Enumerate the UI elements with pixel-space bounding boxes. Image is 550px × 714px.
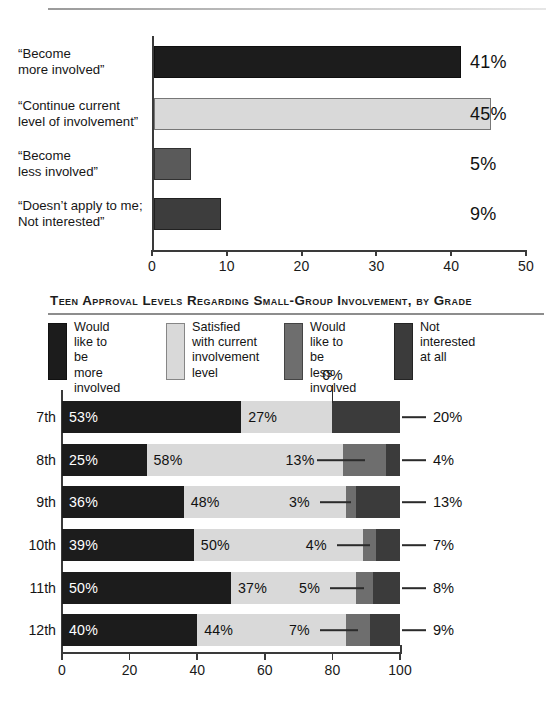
chart2-legend-swatch (284, 323, 303, 380)
chart2-legend-label-line: with current (192, 335, 259, 350)
chart2-leader-line-less (332, 385, 334, 403)
chart1-category-label: “Becomeless involved” (18, 148, 146, 180)
chart2-tick-label: 20 (122, 662, 138, 678)
chart2-leader-line-not (402, 459, 426, 461)
chart2-legend-label-line: involvement (192, 350, 259, 365)
chart1-category-line: less involved” (18, 164, 146, 180)
chart2-grade-label: 11th (8, 580, 56, 596)
chart2-legend-label-line: interested (420, 335, 475, 350)
chart2-leader-line-not (402, 629, 426, 631)
chart1-category-label: “Becomemore involved” (18, 46, 146, 78)
chart2-plot-area: 020406080100 7th53%27%0%20%8th25%58%13%4… (0, 390, 550, 714)
chart2-tick (129, 654, 131, 660)
chart2-tick-label: 100 (388, 662, 411, 678)
chart2-grade-row: 8th25%58%13%4% (0, 439, 550, 481)
chart2-tick (196, 654, 198, 660)
chart-teen-approval-stacked: Teen Approval Levels Regarding Small-Gro… (0, 280, 550, 714)
chart2-grade-label: 7th (8, 409, 56, 425)
chart2-legend-label-line: at all (420, 350, 475, 365)
chart2-segment-label-more: 53% (69, 409, 98, 425)
chart2-grade-row: 9th36%48%3%13% (0, 481, 550, 523)
chart2-leader-line-not (402, 416, 426, 418)
chart1-tick-label: 30 (368, 258, 384, 274)
chart2-segment-label-not-interested: 8% (433, 580, 454, 596)
chart1-tick (525, 250, 527, 256)
chart2-legend-label: Notinterestedat all (420, 320, 475, 366)
chart2-legend-label-line: Satisfied (192, 320, 259, 335)
chart2-legend-swatch (48, 323, 67, 380)
chart1-bar-row: “Continue currentlevel of involvement”45… (0, 88, 550, 140)
chart2-segment-label-satisfied: 58% (154, 452, 183, 468)
chart2-segment-label-less: 13% (286, 452, 315, 468)
chart1-tick-label: 40 (443, 258, 459, 274)
chart2-tick (264, 654, 266, 660)
chart1-bar-row: “Doesn’t apply to me;Not interested”9% (0, 188, 550, 240)
chart2-legend: Wouldlike to bemoreinvolvedSatisfiedwith… (48, 322, 518, 384)
chart2-leader-line-not (402, 501, 426, 503)
chart2-segment-label-more: 25% (69, 452, 98, 468)
chart1-tick (151, 250, 153, 256)
chart2-stacked-bar: 36%48%3% (62, 486, 400, 518)
chart2-segment-label-not-interested: 4% (433, 452, 454, 468)
chart2-segment-label-less: 3% (289, 494, 310, 510)
chart2-bar-segment (332, 401, 400, 433)
chart2-grade-label: 9th (8, 494, 56, 510)
chart2-leader-line-less (320, 501, 351, 503)
chart2-segment-label-not-interested: 7% (433, 537, 454, 553)
chart2-legend-label-line: more (74, 366, 120, 381)
chart1-value-label: 5% (470, 154, 497, 175)
chart-opinion-bar: 01020304050 “Becomemore involved”41%“Con… (0, 18, 550, 260)
chart2-segment-label-satisfied: 37% (238, 580, 267, 596)
chart2-legend-label-line: level (192, 366, 259, 381)
chart2-grade-row: 12th40%44%7%9% (0, 609, 550, 651)
chart1-bar (154, 46, 461, 78)
chart1-category-label: “Continue currentlevel of involvement” (18, 98, 146, 130)
chart2-grade-label: 12th (8, 622, 56, 638)
chart1-x-axis (152, 250, 526, 252)
chart2-title: Teen Approval Levels Regarding Small-Gro… (50, 293, 542, 308)
chart2-legend-swatch (394, 323, 413, 380)
chart1-tick-label: 10 (219, 258, 235, 274)
chart1-category-line: “Become (18, 148, 146, 164)
chart2-tick-label: 60 (257, 662, 273, 678)
chart2-segment-label-not-interested: 13% (433, 494, 462, 510)
chart2-leader-line-not (402, 544, 426, 546)
chart2-bar-segment (376, 529, 400, 561)
chart2-segment-label-satisfied: 44% (204, 622, 233, 638)
chart1-bar-row: “Becomemore involved”41% (0, 36, 550, 88)
chart1-bar (154, 148, 191, 180)
top-divider-rule (48, 8, 546, 10)
chart1-tick-label: 20 (294, 258, 310, 274)
chart2-stacked-bar: 53%27%0% (62, 401, 400, 433)
chart2-leader-line-less (330, 587, 364, 589)
chart1-tick (301, 250, 303, 256)
chart2-legend-swatch (166, 323, 185, 380)
chart2-segment-label-less: 4% (306, 537, 327, 553)
chart2-segment-label-satisfied: 50% (201, 537, 230, 553)
chart1-category-line: level of involvement” (18, 114, 146, 130)
chart2-segment-label-satisfied: 27% (248, 409, 277, 425)
chart2-stacked-bar: 25%58%13% (62, 444, 400, 476)
chart2-grade-row: 7th53%27%0%20% (0, 396, 550, 438)
chart1-tick (226, 250, 228, 256)
chart2-legend-label: Satisfiedwith currentinvolvementlevel (192, 320, 259, 381)
chart2-tick (399, 654, 401, 660)
chart2-leader-line-less (320, 629, 358, 631)
chart2-legend-label-line: Not (420, 320, 475, 335)
chart2-stacked-bar: 39%50%4% (62, 529, 400, 561)
chart2-grade-row: 10th39%50%4%7% (0, 524, 550, 566)
chart2-stacked-bar: 50%37%5% (62, 572, 400, 604)
chart2-leader-line-less (317, 459, 365, 461)
chart2-stacked-bar: 40%44%7% (62, 614, 400, 646)
chart1-category-line: “Doesn’t apply to me; (18, 198, 146, 214)
chart2-leader-line-not (402, 587, 426, 589)
chart2-grade-label: 8th (8, 452, 56, 468)
chart2-legend-label-line: Would (310, 320, 356, 335)
chart1-category-line: Not interested” (18, 214, 146, 230)
chart2-tick-label: 40 (189, 662, 205, 678)
chart1-category-line: “Become (18, 46, 146, 62)
chart1-category-label: “Doesn’t apply to me;Not interested” (18, 198, 146, 230)
chart2-title-underline (48, 313, 544, 315)
chart2-leader-line-less (337, 544, 370, 546)
chart2-bar-segment (356, 486, 400, 518)
